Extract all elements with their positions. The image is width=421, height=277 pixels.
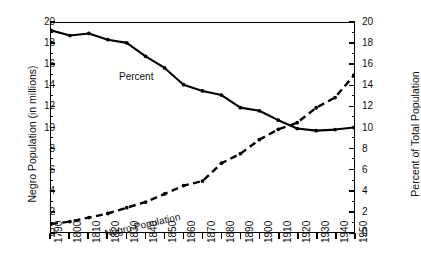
x-tick-label-1890: 1890	[245, 221, 255, 243]
y-tick-mark-right-20	[349, 21, 355, 23]
x-tick-mark-1790	[49, 233, 51, 239]
y-tick-label-right-20: 20	[362, 17, 390, 27]
x-tick-label-1880: 1880	[226, 221, 236, 243]
series-line-percent	[51, 30, 354, 130]
y-tick-mark-right-1	[352, 222, 355, 223]
y-tick-label-right-14: 14	[362, 80, 390, 90]
y-tick-mark-left-11	[50, 116, 53, 117]
x-tick-mark-1860	[183, 233, 185, 239]
plot-area: Percent Negro Population	[50, 22, 355, 233]
x-tick-mark-1950	[354, 233, 356, 239]
x-tick-mark-1830	[126, 233, 128, 239]
x-tick-label-1860: 1860	[187, 221, 197, 243]
y-tick-label-right-8: 8	[362, 144, 390, 154]
y-tick-label-right-4: 4	[362, 186, 390, 196]
y-tick-mark-right-7	[352, 158, 355, 159]
y-tick-mark-right-8	[349, 148, 355, 150]
y-tick-mark-left-15	[50, 74, 53, 75]
y-tick-label-left-8: 8	[27, 144, 55, 154]
y-tick-label-right-10: 10	[362, 123, 390, 133]
x-tick-label-1940: 1940	[340, 221, 350, 243]
x-tick-mark-1880	[221, 233, 223, 239]
x-tick-mark-1900	[259, 233, 261, 239]
y-tick-mark-right-13	[352, 95, 355, 96]
x-tick-label-1870: 1870	[207, 221, 217, 243]
y-tick-mark-left-3	[50, 201, 53, 202]
y-tick-mark-left-13	[50, 95, 53, 96]
x-tick-label-1930: 1930	[321, 221, 331, 243]
y-tick-label-left-0: 0	[27, 228, 55, 238]
y-tick-mark-right-5	[352, 180, 355, 181]
y-tick-label-left-18: 18	[27, 38, 55, 48]
y-axis-right-title: Percent of Total Population	[409, 39, 421, 229]
y-tick-mark-right-11	[352, 116, 355, 117]
y-tick-label-right-12: 12	[362, 101, 390, 111]
x-tick-mark-1870	[202, 233, 204, 239]
y-tick-label-left-16: 16	[27, 59, 55, 69]
y-tick-mark-right-6	[349, 169, 355, 171]
x-tick-label-1900: 1900	[264, 221, 274, 243]
x-tick-label-1810: 1810	[92, 221, 102, 243]
x-tick-mark-1910	[278, 233, 280, 239]
x-tick-mark-1850	[164, 233, 166, 239]
y-tick-mark-left-19	[50, 32, 53, 33]
x-tick-mark-1800	[68, 233, 70, 239]
y-tick-label-left-10: 10	[27, 123, 55, 133]
x-tick-mark-1920	[297, 233, 299, 239]
y-tick-mark-right-3	[352, 201, 355, 202]
y-tick-mark-right-17	[352, 53, 355, 54]
y-tick-mark-right-2	[349, 211, 355, 213]
y-tick-label-left-12: 12	[27, 101, 55, 111]
y-tick-label-left-2: 2	[27, 207, 55, 217]
y-tick-mark-left-17	[50, 53, 53, 54]
y-tick-label-right-2: 2	[362, 207, 390, 217]
y-tick-mark-right-18	[349, 42, 355, 44]
y-tick-mark-right-4	[349, 190, 355, 192]
y-tick-mark-right-10	[349, 127, 355, 129]
y-tick-mark-right-12	[349, 106, 355, 108]
y-tick-mark-left-7	[50, 158, 53, 159]
y-tick-mark-left-5	[50, 180, 53, 181]
x-tick-label-1830: 1830	[130, 221, 140, 243]
y-tick-label-right-16: 16	[362, 59, 390, 69]
series-markers-population	[51, 73, 354, 226]
series-line-population	[51, 75, 354, 224]
y-tick-label-right-6: 6	[362, 165, 390, 175]
x-tick-mark-1930	[316, 233, 318, 239]
y-tick-mark-left-9	[50, 137, 53, 138]
x-tick-mark-1940	[335, 233, 337, 239]
y-tick-label-right-18: 18	[362, 38, 390, 48]
y-tick-mark-right-9	[352, 137, 355, 138]
y-tick-mark-right-14	[349, 85, 355, 87]
x-tick-label-1840: 1840	[149, 221, 159, 243]
y-tick-mark-right-15	[352, 74, 355, 75]
x-tick-mark-1890	[240, 233, 242, 239]
y-tick-label-left-6: 6	[27, 165, 55, 175]
y-tick-label-left-4: 4	[27, 186, 55, 196]
x-tick-label-1820: 1820	[111, 221, 121, 243]
y-tick-mark-right-16	[349, 63, 355, 65]
x-tick-label-1850: 1850	[168, 221, 178, 243]
x-tick-mark-1810	[87, 233, 89, 239]
y-tick-mark-right-19	[352, 32, 355, 33]
series-markers-percent	[51, 28, 354, 132]
series-canvas	[51, 23, 354, 232]
x-tick-label-1950: 1950	[359, 221, 369, 243]
x-tick-mark-1820	[106, 233, 108, 239]
x-tick-mark-1840	[145, 233, 147, 239]
x-tick-label-1790: 1790	[54, 221, 64, 243]
percent-series-label: Percent	[119, 71, 153, 82]
x-tick-label-1920: 1920	[302, 221, 312, 243]
y-tick-label-left-14: 14	[27, 80, 55, 90]
x-tick-label-1800: 1800	[73, 221, 83, 243]
x-tick-label-1910: 1910	[283, 221, 293, 243]
y-tick-label-left-20: 20	[27, 17, 55, 27]
